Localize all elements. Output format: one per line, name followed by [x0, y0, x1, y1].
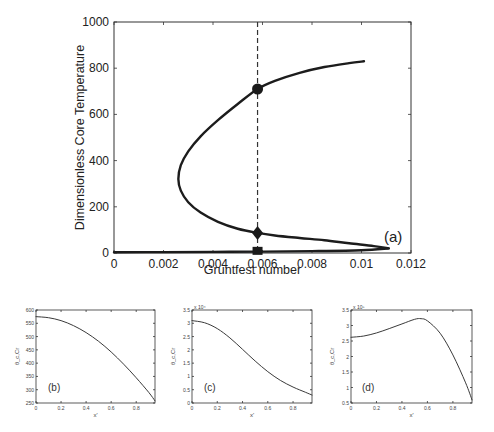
- x-axis-label: x': [93, 412, 97, 418]
- y-tick-label: 200: [89, 200, 109, 214]
- x-tick-label: 0.6: [264, 405, 271, 411]
- y-tick-label: 2: [187, 347, 190, 353]
- panel-label-b: (b): [48, 382, 60, 393]
- plot-frame: [114, 22, 411, 253]
- y-tick-label: 1: [187, 373, 190, 379]
- data-series: [114, 248, 389, 252]
- x-tick-label: 0.4: [398, 405, 405, 411]
- panel-label-d: (d): [362, 382, 374, 393]
- y-multiplier: x 10⁴: [194, 304, 206, 310]
- y-tick-label: 600: [26, 307, 35, 313]
- x-tick-label: 0.8: [133, 405, 140, 411]
- y-tick-label: 1: [346, 385, 349, 391]
- x-axis-label: Gruntfest number: [204, 263, 301, 277]
- subplot-b: 00.20.40.60.8250300350400450500550600(b)…: [14, 307, 155, 418]
- y-tick-label: 0: [102, 246, 109, 260]
- diamond-marker: [252, 226, 263, 240]
- subplot-c: 00.20.40.60.800.511.522.533.5(c)x'θ_c,Cr…: [170, 304, 312, 418]
- y-tick-label: 800: [89, 61, 109, 75]
- y-axis-label: θ_c,Cr: [170, 348, 176, 366]
- x-tick-label: 0: [350, 405, 353, 411]
- x-tick-label: 0.2: [373, 405, 380, 411]
- y-tick-label: 1000: [82, 15, 109, 29]
- subplot-d: 00.20.40.60.80.511.522.533.5(d)x'θ_c,Crx…: [329, 304, 472, 418]
- x-tick-label: 0.2: [214, 405, 221, 411]
- y-tick-label: 500: [26, 334, 35, 340]
- x-tick-label: 0.2: [58, 405, 65, 411]
- x-tick-label: 0.01: [350, 257, 374, 271]
- y-tick-label: 0.5: [183, 387, 190, 393]
- x-tick-label: 0.008: [297, 257, 327, 271]
- x-tick-label: 0: [111, 257, 118, 271]
- y-tick-label: 2.5: [183, 334, 190, 340]
- y-tick-label: 300: [26, 387, 35, 393]
- y-tick-label: 0: [187, 400, 190, 406]
- y-axis-label: θ_c,Cr: [329, 348, 335, 366]
- x-tick-label: 0: [191, 405, 194, 411]
- y-tick-label: 2.5: [342, 338, 349, 344]
- y-tick-label: 3.5: [342, 307, 349, 313]
- y-tick-label: 400: [26, 360, 35, 366]
- x-axis-label: x': [250, 412, 254, 418]
- x-tick-label: 0: [35, 405, 38, 411]
- x-tick-label: 0.8: [290, 405, 297, 411]
- y-multiplier: x 10⁵: [353, 304, 365, 310]
- y-tick-label: 450: [26, 347, 35, 353]
- y-axis-label: Dimensionless Core Temperature: [73, 45, 87, 230]
- x-tick-label: 0.4: [239, 405, 246, 411]
- y-tick-label: 400: [89, 154, 109, 168]
- y-tick-label: 3: [187, 320, 190, 326]
- y-tick-label: 250: [26, 400, 35, 406]
- y-axis-label: θ_c,Cr: [14, 348, 20, 366]
- y-tick-label: 1.5: [183, 360, 190, 366]
- y-tick-label: 2: [346, 354, 349, 360]
- circle-marker: [252, 83, 263, 94]
- y-tick-label: 0.5: [342, 400, 349, 406]
- x-tick-label: 0.8: [449, 405, 456, 411]
- x-tick-label: 0.012: [396, 257, 426, 271]
- x-tick-label: 0.002: [148, 257, 178, 271]
- x-tick-label: 0.6: [424, 405, 431, 411]
- y-tick-label: 3.5: [183, 307, 190, 313]
- y-tick-label: 600: [89, 107, 109, 121]
- figure: 00.0020.0040.0060.0080.010.0120200400600…: [0, 0, 494, 432]
- y-tick-label: 550: [26, 320, 35, 326]
- x-tick-label: 0.6: [108, 405, 115, 411]
- y-tick-label: 1.5: [342, 369, 349, 375]
- square-marker: [253, 247, 263, 255]
- data-series: [178, 61, 388, 248]
- y-tick-label: 3: [346, 323, 349, 329]
- y-tick-label: 350: [26, 373, 35, 379]
- x-tick-label: 0.4: [83, 405, 90, 411]
- main-plot-a: 00.0020.0040.0060.0080.010.0120200400600…: [73, 15, 426, 277]
- x-axis-label: x': [409, 412, 413, 418]
- panel-label-c: (c): [204, 382, 216, 393]
- panel-label-a: (a): [384, 228, 402, 245]
